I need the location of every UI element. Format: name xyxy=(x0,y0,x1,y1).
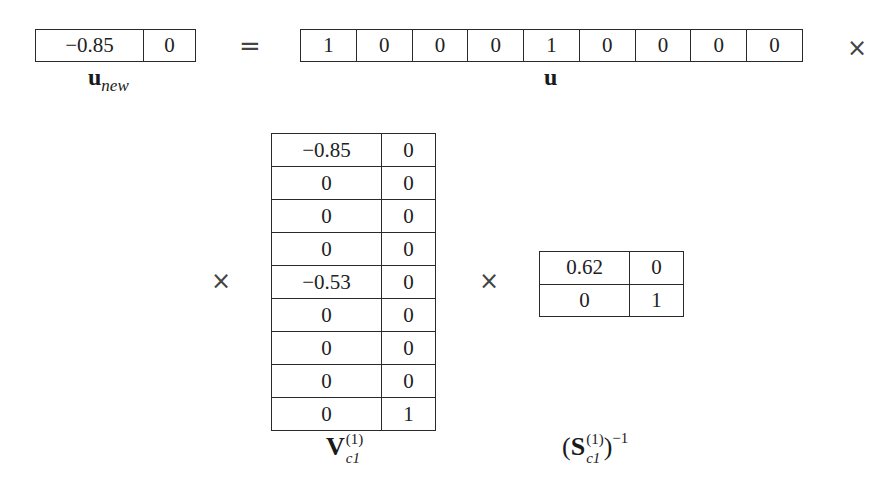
s-cell: 0 xyxy=(630,252,684,285)
v-matrix: −0.850 00 00 00 −0.530 00 00 00 01 xyxy=(271,133,436,431)
v-cell: 0 xyxy=(272,332,382,365)
u-cell: 0 xyxy=(747,30,803,62)
u-cell: 1 xyxy=(524,30,580,62)
u-cell: 0 xyxy=(635,30,691,62)
v-cell: 0 xyxy=(272,299,382,332)
u-vector: 1 0 0 0 1 0 0 0 0 xyxy=(300,29,803,62)
u-cell: 0 xyxy=(356,30,412,62)
u-new-cell: 0 xyxy=(144,30,196,62)
u-new-vector: −0.85 0 xyxy=(35,29,196,62)
u-cell: 0 xyxy=(412,30,468,62)
s-inverse-label: (S(1)c1)−1 xyxy=(562,432,628,466)
v-row: 00 xyxy=(272,233,436,266)
u-cell: 0 xyxy=(579,30,635,62)
v-cell: 0 xyxy=(272,365,382,398)
v-cell: 0 xyxy=(382,332,436,365)
v-row: 00 xyxy=(272,332,436,365)
times-sign-left: × xyxy=(211,269,231,293)
u-new-label: unew xyxy=(88,64,129,91)
u-cell: 1 xyxy=(301,30,357,62)
v-cell: 0 xyxy=(382,299,436,332)
s-row: 01 xyxy=(540,284,684,317)
v-cell: 0 xyxy=(272,200,382,233)
u-cell: 0 xyxy=(691,30,747,62)
v-row: 00 xyxy=(272,365,436,398)
v-cell: 0 xyxy=(382,200,436,233)
v-row: −0.850 xyxy=(272,134,436,167)
v-cell: 0 xyxy=(272,398,382,431)
s-inverse-matrix: 0.620 01 xyxy=(539,251,684,317)
u-label: u xyxy=(544,64,557,91)
v-label: V(1)c1 xyxy=(326,432,363,466)
v-row: 00 xyxy=(272,167,436,200)
s-cell: 0.62 xyxy=(540,252,630,285)
v-cell: 0 xyxy=(272,167,382,200)
times-sign-middle: × xyxy=(479,269,499,293)
v-cell: 0 xyxy=(382,365,436,398)
v-cell: 1 xyxy=(382,398,436,431)
v-cell: 0 xyxy=(272,233,382,266)
v-cell: 0 xyxy=(382,266,436,299)
v-cell: −0.85 xyxy=(272,134,382,167)
v-row: 00 xyxy=(272,200,436,233)
v-cell: 0 xyxy=(382,167,436,200)
s-row: 0.620 xyxy=(540,252,684,285)
s-cell: 0 xyxy=(540,284,630,317)
v-cell: 0 xyxy=(382,134,436,167)
s-cell: 1 xyxy=(630,284,684,317)
v-row: 00 xyxy=(272,299,436,332)
v-row: 01 xyxy=(272,398,436,431)
v-row: −0.530 xyxy=(272,266,436,299)
v-cell: −0.53 xyxy=(272,266,382,299)
u-new-cell: −0.85 xyxy=(36,30,144,62)
u-cell: 0 xyxy=(468,30,524,62)
times-sign-top: × xyxy=(847,36,867,60)
v-cell: 0 xyxy=(382,233,436,266)
equals-sign: = xyxy=(239,33,261,59)
